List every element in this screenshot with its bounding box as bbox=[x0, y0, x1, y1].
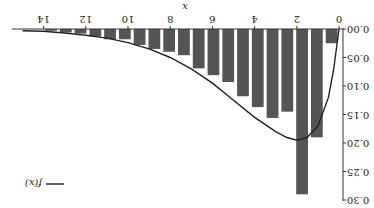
x-tick-label: 10 bbox=[122, 14, 135, 25]
histogram-bar bbox=[119, 29, 131, 39]
x-tick-label: 4 bbox=[251, 14, 257, 25]
histogram-bar bbox=[208, 29, 220, 75]
x-tick-label: 2 bbox=[294, 14, 300, 25]
y-tick-label: 0.05 bbox=[347, 53, 369, 64]
legend-label: f(x) bbox=[25, 178, 43, 189]
histogram-bar bbox=[311, 29, 323, 137]
histogram-chart: 024681012140.000.050.100.150.200.250.30x… bbox=[0, 0, 374, 208]
histogram-bar bbox=[281, 29, 293, 112]
y-tick-label: 0.10 bbox=[347, 81, 369, 92]
chart-root: 024681012140.000.050.100.150.200.250.30x… bbox=[0, 0, 374, 208]
histogram-bar bbox=[222, 29, 234, 82]
histogram-bar bbox=[193, 29, 205, 68]
histogram-bar bbox=[163, 29, 175, 52]
histogram-bar bbox=[326, 29, 338, 43]
y-tick-label: 0.25 bbox=[347, 167, 369, 178]
x-tick-label: 14 bbox=[37, 14, 50, 25]
histogram-bar bbox=[252, 29, 264, 107]
histogram-bar bbox=[296, 29, 308, 194]
histogram-bar bbox=[237, 29, 249, 96]
x-tick-label: 12 bbox=[79, 14, 92, 25]
histogram-bar bbox=[60, 29, 72, 32]
histogram-bar bbox=[178, 29, 190, 55]
x-axis-label: x bbox=[182, 2, 188, 13]
x-tick-label: 8 bbox=[167, 14, 173, 25]
x-tick-label: 0 bbox=[336, 14, 342, 25]
histogram-bar bbox=[148, 29, 160, 49]
x-tick-label: 6 bbox=[209, 14, 215, 25]
y-tick-label: 0.20 bbox=[347, 138, 369, 149]
histogram-bar bbox=[75, 29, 87, 34]
histogram-bar bbox=[134, 29, 146, 45]
histogram-bar bbox=[267, 29, 279, 118]
y-tick-label: 0.00 bbox=[347, 24, 369, 35]
y-tick-label: 0.15 bbox=[347, 110, 369, 121]
y-tick-label: 0.30 bbox=[347, 195, 369, 206]
